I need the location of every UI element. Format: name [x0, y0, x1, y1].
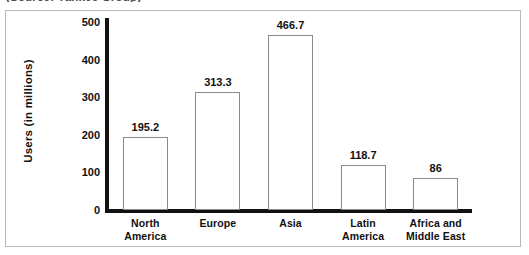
- plot-area: Users (in millions) 0100200300400500 195…: [6, 11, 520, 246]
- x-axis-category-label: Africa andMiddle East: [391, 217, 481, 242]
- y-axis-tick-label: 0: [72, 205, 100, 216]
- source-caption: (Source: Yankee Group): [6, 0, 141, 2]
- y-axis-title: Users (in millions): [22, 59, 34, 163]
- chart-frame: Users (in millions) 0100200300400500 195…: [5, 10, 521, 247]
- bar-value-label: 118.7: [323, 150, 403, 161]
- bar-value-label: 313.3: [178, 77, 258, 88]
- y-axis-tick-label: 200: [72, 129, 100, 140]
- bar-value-label: 195.2: [105, 122, 185, 133]
- bar-value-label: 86: [396, 163, 476, 174]
- y-axis-tick-label: 300: [72, 92, 100, 103]
- bar: [195, 92, 240, 210]
- bar: [268, 35, 313, 210]
- bar: [341, 165, 386, 210]
- y-axis-line: [105, 18, 109, 213]
- y-axis-tick-label: 500: [72, 17, 100, 28]
- bar-value-label: 466.7: [251, 20, 331, 31]
- bar: [413, 178, 458, 210]
- y-axis-tick-label: 100: [72, 167, 100, 178]
- bar: [123, 137, 168, 210]
- y-axis-tick-label: 400: [72, 54, 100, 65]
